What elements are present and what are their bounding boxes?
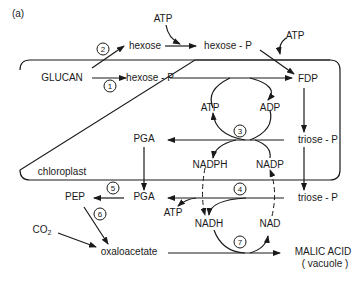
node-atp-top-right: ATP	[286, 31, 305, 41]
step-3-badge: 3	[234, 125, 247, 138]
node-nad: NAD	[259, 219, 280, 229]
node-hexose-p-outer: hexose - P	[204, 41, 252, 51]
node-hexose: hexose	[129, 41, 161, 51]
node-oxaloacetate: oxaloacetate	[101, 247, 158, 257]
node-atp-top: ATP	[154, 14, 173, 24]
step-4-badge: 4	[234, 183, 247, 196]
step-1-badge: 1	[104, 80, 117, 93]
node-triose-p-outer: triose - P	[298, 193, 338, 203]
node-atp-cycle3: ATP	[201, 103, 220, 113]
node-pep: PEP	[65, 192, 85, 202]
metabolic-pathway-diagram: (a) ATP ATP hexose hexose - P GLUCAN hex…	[0, 0, 364, 282]
node-triose-p-inner: triose - P	[298, 135, 338, 145]
node-nadph: NADPH	[192, 160, 227, 170]
co2-subscript: 2	[48, 229, 52, 236]
node-hexose-p-inner: hexose - P	[126, 73, 174, 83]
node-nadh: NADH	[195, 219, 223, 229]
step-2-badge: 2	[97, 43, 110, 56]
node-malic-acid: MALIC ACID	[295, 247, 352, 257]
co2-text: CO	[33, 224, 48, 235]
node-pga-inner: PGA	[133, 134, 154, 144]
panel-label: (a)	[12, 9, 24, 19]
node-glucan: GLUCAN	[41, 73, 83, 83]
node-atp-cycle4: ATP	[164, 208, 183, 218]
step-6-badge: 6	[94, 208, 107, 221]
node-co2: CO2	[33, 225, 52, 236]
compartment-label: chloroplast	[38, 167, 86, 177]
node-fdp: FDP	[298, 74, 318, 84]
step-5-badge: 5	[107, 182, 120, 195]
node-nadp: NADP	[256, 160, 284, 170]
node-adp-cycle3: ADP	[260, 103, 281, 113]
step-7-badge: 7	[234, 236, 247, 249]
node-vacuole: ( vacuole )	[302, 259, 349, 269]
node-pga-outer: PGA	[133, 192, 154, 202]
